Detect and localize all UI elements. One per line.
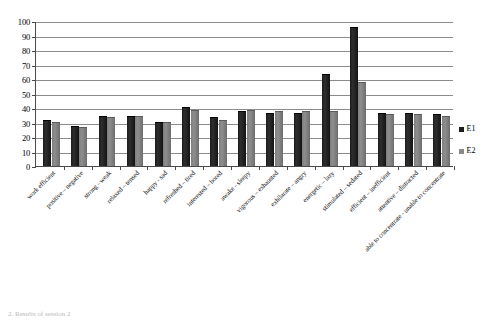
bar-e1 (294, 113, 302, 166)
legend-label-e1: E1 (467, 125, 476, 133)
chart-legend: E1 E2 (459, 118, 493, 162)
bar-e2 (358, 82, 366, 166)
bar-group (432, 22, 460, 166)
bar-e1 (43, 120, 51, 166)
figure-caption: 2. Results of session 2 (8, 311, 70, 318)
bar-e1 (238, 111, 246, 166)
bar-e1 (99, 116, 107, 166)
legend-swatch-e1-icon (459, 127, 464, 132)
bar-group (98, 22, 126, 166)
bar-group (377, 22, 405, 166)
bar-e1 (322, 74, 330, 166)
bar-e2 (386, 114, 394, 166)
plot-area: 0102030405060708090100 (35, 22, 453, 167)
y-tick-label: 20 (22, 134, 30, 143)
y-tick-label: 30 (22, 119, 30, 128)
y-tick-label: 90 (22, 32, 30, 41)
y-tick-label: 60 (22, 76, 30, 85)
bar-e1 (71, 126, 79, 166)
bar-e2 (135, 116, 143, 166)
bar-e2 (79, 127, 87, 166)
y-tick-label: 40 (22, 105, 30, 114)
bar-e1 (210, 117, 218, 166)
bar-e2 (275, 111, 283, 166)
x-axis-labels: work efficientpositive – negativestrong … (35, 170, 494, 310)
bar-e1 (182, 107, 190, 166)
y-tick-label: 80 (22, 47, 30, 56)
bar-e2 (219, 120, 227, 166)
bar-group (70, 22, 98, 166)
bar-group (209, 22, 237, 166)
bar-e2 (330, 111, 338, 166)
bar-group (404, 22, 432, 166)
bar-e2 (52, 122, 60, 167)
legend-label-e2: E2 (467, 147, 476, 155)
legend-swatch-e2-icon (459, 149, 464, 154)
bar-e1 (378, 113, 386, 166)
bar-e2 (247, 110, 255, 166)
bar-e1 (433, 114, 441, 166)
bar-group (42, 22, 70, 166)
y-tick-label: 100 (18, 18, 30, 27)
legend-item-e1: E1 (459, 118, 493, 140)
y-tick-label: 50 (22, 90, 30, 99)
bar-group (293, 22, 321, 166)
bars-layer (36, 22, 453, 166)
bar-e1 (127, 116, 135, 166)
bar-group (181, 22, 209, 166)
bar-group (154, 22, 182, 166)
bar-e1 (155, 122, 163, 167)
y-tick-label: 0 (26, 163, 30, 172)
bar-e1 (350, 27, 358, 166)
bar-chart-figure: 0102030405060708090100 work efficientpos… (0, 0, 494, 320)
bar-e2 (414, 114, 422, 166)
bar-group (349, 22, 377, 166)
bar-e2 (302, 111, 310, 166)
bar-group (321, 22, 349, 166)
bar-group (265, 22, 293, 166)
bar-e1 (266, 113, 274, 166)
y-tick-label: 10 (22, 148, 30, 157)
x-axis-label: happy - sad (142, 170, 168, 196)
legend-item-e2: E2 (459, 140, 493, 162)
bar-e2 (107, 117, 115, 166)
bar-e2 (442, 116, 450, 166)
bar-group (237, 22, 265, 166)
y-tick-mark (32, 167, 36, 168)
bar-e2 (191, 110, 199, 166)
y-tick-label: 70 (22, 61, 30, 70)
bar-e1 (405, 113, 413, 166)
bar-e2 (163, 122, 171, 167)
bar-group (126, 22, 154, 166)
